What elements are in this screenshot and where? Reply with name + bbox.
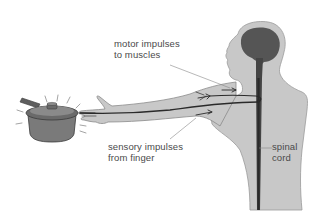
motor-label-line1: motor impulses: [114, 38, 180, 49]
spinal-cord-label: spinal cord: [272, 141, 297, 163]
arm-silhouette: [79, 82, 236, 126]
pan-handle: [20, 98, 40, 108]
motor-impulses-label: motor impulses to muscles: [114, 38, 180, 60]
hot-saucepan: [20, 98, 78, 142]
sensory-label-line2: from finger: [108, 152, 183, 163]
spinal-label-line1: spinal: [272, 141, 297, 152]
motor-label-line2: to muscles: [114, 49, 180, 60]
synapse-node: [257, 99, 261, 103]
sensory-impulses-label: sensory impulses from finger: [108, 141, 183, 163]
spinal-label-line2: cord: [272, 152, 297, 163]
sensory-label-line1: sensory impulses: [108, 141, 183, 152]
reflex-arc-diagram: motor impulses to muscles sensory impuls…: [0, 0, 325, 222]
motor-leader-line: [170, 65, 230, 88]
sensory-leader-line: [170, 118, 196, 139]
diagram-svg: [0, 0, 325, 222]
